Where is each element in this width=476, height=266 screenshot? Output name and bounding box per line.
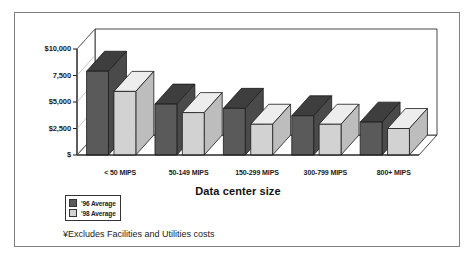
legend-item-series-98: '98 Average [69, 208, 116, 218]
chart-legend: '96 Average '98 Average [65, 195, 121, 221]
x-axis-category-label: 300-799 MIPS [290, 169, 360, 176]
x-axis-category-label: < 50 MIPS [85, 169, 155, 176]
legend-swatch-series-98 [69, 209, 77, 217]
x-axis-category-label: 50-149 MIPS [154, 169, 224, 176]
chart-frame: $$2,500$5,0007,500$10,000 < 50 MIPS50-14… [14, 12, 460, 247]
x-axis-category-label: 150-299 MIPS [222, 169, 292, 176]
y-axis-tick-label: $10,000 [25, 44, 71, 53]
legend-swatch-series-96 [69, 199, 77, 207]
legend-label-series-98: '98 Average [81, 210, 116, 217]
chart-footnote: ¥Excludes Facilities and Utilities costs [63, 229, 215, 239]
x-axis-category-label: 800+ MIPS [359, 169, 429, 176]
y-axis-tick-label: 7,500 [25, 71, 71, 80]
chart-page: $$2,500$5,0007,500$10,000 < 50 MIPS50-14… [0, 0, 476, 266]
y-axis-tick-label: $5,000 [25, 97, 71, 106]
legend-item-series-96: '96 Average [69, 198, 116, 208]
y-axis-tick-label: $ [25, 150, 71, 159]
y-axis-tick-label: $2,500 [25, 124, 71, 133]
legend-label-series-96: '96 Average [81, 200, 116, 207]
